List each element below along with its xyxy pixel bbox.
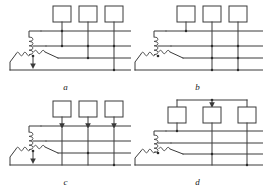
load-lead-group-d — [177, 123, 247, 165]
feeder-phase-1 — [154, 31, 166, 37]
bus-line-group-a — [10, 31, 131, 70]
junction-node — [61, 45, 63, 47]
junction-node — [87, 152, 89, 154]
panel-label-c: c — [0, 177, 131, 187]
junction-node-group-c — [87, 152, 115, 166]
load-box — [105, 101, 123, 117]
coil-phase-2 — [16, 52, 30, 56]
load-box — [168, 107, 186, 123]
circuit-panel-c: c — [0, 95, 131, 190]
junction-node — [87, 45, 89, 47]
junction-node — [113, 69, 115, 71]
neutral-current-arrow-c — [30, 151, 36, 164]
load-box-group-c — [53, 101, 123, 117]
load-box — [79, 101, 97, 117]
load-box — [53, 101, 71, 117]
feeder-phase-3 — [170, 52, 183, 58]
transformer-winding-b — [141, 37, 170, 57]
junction-node — [237, 57, 239, 59]
transformer-winding-c — [16, 132, 45, 152]
feeder-neutral-return — [10, 149, 16, 165]
load-lead-group-c — [62, 129, 114, 165]
coil-phase-3 — [34, 145, 45, 148]
junction-node — [237, 69, 239, 71]
junction-node — [87, 57, 89, 59]
feeder-phase-1 — [154, 131, 166, 135]
coil-phase-2 — [16, 147, 30, 151]
arrow-head-down — [30, 64, 36, 70]
neutral-node — [157, 55, 160, 58]
circuit-panel-b: b — [132, 0, 263, 95]
coil-phase-2 — [141, 52, 155, 56]
coil-phase-1 — [154, 37, 158, 55]
neutral-node — [157, 152, 160, 155]
coil-phase-1 — [29, 132, 33, 150]
junction-node — [113, 45, 115, 47]
feeder-neutral-return — [135, 54, 141, 70]
load-box — [203, 107, 221, 123]
load-current-arrow-group-c — [59, 117, 117, 129]
transformer-winding-a — [16, 37, 45, 57]
junction-node — [211, 69, 213, 71]
panel-label-d: d — [132, 177, 263, 187]
coil-phase-1 — [29, 37, 33, 55]
feeder-phase-1 — [29, 31, 41, 37]
coil-phase-3 — [159, 147, 170, 150]
load-box — [229, 6, 247, 22]
panel-label-b: b — [132, 82, 263, 92]
load-box — [238, 107, 256, 123]
junction-node — [211, 153, 213, 155]
junction-node — [211, 57, 213, 59]
circuit-panel-d: d — [132, 95, 263, 190]
neutral-current-arrow-a — [30, 56, 36, 69]
junction-node — [176, 130, 178, 132]
load-box — [53, 6, 71, 22]
panel-label-a: a — [0, 82, 131, 92]
load-box — [105, 6, 123, 22]
transformer-winding-d — [141, 135, 170, 154]
transformer-feeder-group-b — [135, 31, 183, 70]
load-box — [177, 6, 195, 22]
feeder-phase-3 — [170, 149, 183, 154]
load-box — [79, 6, 97, 22]
junction-node — [61, 30, 63, 32]
load-box-group-a — [53, 6, 123, 22]
feeder-phase-1 — [29, 126, 41, 132]
junction-node — [246, 164, 248, 166]
junction-node — [185, 30, 187, 32]
load-box — [203, 6, 221, 22]
feeder-phase-3 — [45, 147, 58, 153]
load-box-group-d — [168, 107, 256, 123]
junction-node — [211, 45, 213, 47]
bus-line-group-c — [10, 126, 131, 165]
feeder-phase-3 — [45, 52, 58, 58]
junction-node — [113, 164, 115, 166]
coil-phase-3 — [34, 50, 45, 53]
coil-phase-2 — [141, 149, 155, 153]
feeder-neutral-return — [135, 151, 141, 165]
feeder-neutral-return — [10, 54, 16, 70]
arrow-head-down — [30, 159, 36, 165]
figure-root: a — [0, 0, 263, 190]
circuit-panel-a: a — [0, 0, 131, 95]
coil-phase-1 — [154, 135, 158, 153]
junction-node — [237, 45, 239, 47]
load-box-group-b — [177, 6, 247, 22]
coil-phase-3 — [159, 50, 170, 53]
